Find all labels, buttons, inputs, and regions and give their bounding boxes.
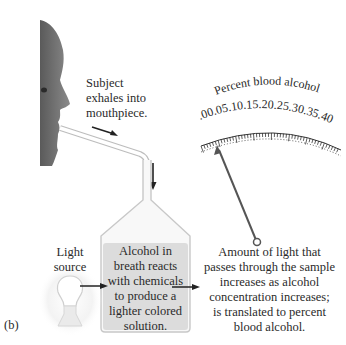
chamber-line: solution. [103, 319, 188, 334]
label-line: Light [44, 245, 96, 260]
caption-line: mouthpiece. [86, 106, 147, 121]
caption-line: Subject [86, 76, 147, 91]
result-line: passes through the sample [193, 260, 346, 275]
chamber-line: lighter colored [103, 304, 188, 319]
gauge-scale [201, 133, 341, 156]
gauge-tick-marks [201, 133, 341, 153]
mouthpiece-tube [60, 128, 147, 198]
result-line: increases as alcohol [193, 275, 346, 290]
result-line: is translated to percent [193, 305, 346, 320]
gauge-title: Percent blood alcohol [212, 74, 322, 98]
label-line: source [44, 260, 96, 275]
chamber-line: breath reacts [103, 259, 188, 274]
gauge-needle [214, 145, 261, 246]
chamber-line: Alcohol in [103, 244, 188, 259]
result-description: Amount of light that passes through the … [193, 245, 346, 335]
airflow-arrow-icon [92, 127, 118, 136]
face-profile-icon [40, 20, 70, 166]
chamber-text: Alcohol in breath reacts with chemicals … [103, 244, 188, 334]
chamber-line: to produce a [103, 289, 188, 304]
panel-label: (b) [4, 318, 19, 333]
light-source-label: Light source [44, 245, 96, 275]
result-line: Amount of light that [193, 245, 346, 260]
caption-line: exhales into [86, 91, 147, 106]
chamber-line: with chemicals [103, 274, 188, 289]
subject-caption: Subject exhales into mouthpiece. [86, 76, 147, 121]
gauge-tick-labels: .00.05.10.15.20.25.30.35.40 [196, 97, 336, 126]
result-line: concentration increases; [193, 290, 346, 305]
result-line: blood alcohol. [193, 320, 346, 335]
